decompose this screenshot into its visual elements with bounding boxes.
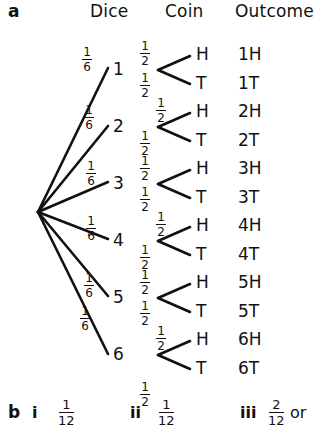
answer-fraction-ii: 1 12 <box>158 398 175 427</box>
coin-probability-6-tails: 1 2 <box>140 381 150 408</box>
fraction-numerator: 1 <box>158 398 175 411</box>
fraction-denominator: 2 <box>140 284 150 296</box>
fraction-denominator: 2 <box>140 87 150 99</box>
dice-branch-line-3 <box>38 182 108 212</box>
outcome-5h: 5H <box>238 274 262 291</box>
dice-probability-3: 1 6 <box>86 160 96 187</box>
dice-node-6: 6 <box>113 346 124 363</box>
fraction-numerator: 1 <box>86 160 96 172</box>
fraction-numerator: 1 <box>156 211 166 223</box>
outcome-6t: 6T <box>238 360 259 377</box>
coin-branch-line-4-tails <box>158 241 190 255</box>
outcome-6h: 6H <box>238 331 262 348</box>
fraction-numerator: 1 <box>140 300 150 312</box>
outcome-3t: 3T <box>238 189 259 206</box>
fraction-numerator: 1 <box>80 305 90 317</box>
coin-branch-line-1-heads <box>158 56 190 70</box>
fraction-numerator: 1 <box>140 269 150 281</box>
fraction-denominator: 6 <box>84 119 94 131</box>
fraction-denominator: 2 <box>140 55 150 67</box>
coin-branch-line-1-tails <box>158 70 190 84</box>
coin-branch-line-6-tails <box>158 355 190 369</box>
answer-numeral-ii: ii <box>130 405 141 421</box>
coin-node-3-heads: H <box>196 160 209 177</box>
fraction-numerator: 1 <box>140 381 150 393</box>
coin-node-6-tails: T <box>196 360 206 377</box>
probability-tree-figure: a Dice Coin Outcome 1 6 <box>0 0 323 434</box>
fraction-denominator: 2 <box>156 226 166 238</box>
outcome-4h: 4H <box>238 217 262 234</box>
outcome-2h: 2H <box>238 103 262 120</box>
coin-probability-2-tails: 1 2 <box>140 130 150 157</box>
coin-branch-line-3-heads <box>158 170 190 184</box>
dice-probability-1: 1 6 <box>82 46 92 73</box>
dice-node-2: 2 <box>113 118 124 135</box>
fraction-numerator: 1 <box>156 325 166 337</box>
dice-probability-5: 1 6 <box>84 272 94 299</box>
coin-node-5-heads: H <box>196 274 209 291</box>
fraction-numerator: 1 <box>140 72 150 84</box>
fraction-denominator: 6 <box>86 230 96 242</box>
outcome-5t: 5T <box>238 303 259 320</box>
dice-probability-2: 1 6 <box>84 104 94 131</box>
dice-node-1: 1 <box>113 61 124 78</box>
outcome-2t: 2T <box>238 132 259 149</box>
part-label-b: b <box>8 404 20 421</box>
dice-probability-6: 1 6 <box>80 305 90 332</box>
outcome-1t: 1T <box>238 75 259 92</box>
fraction-numerator: 1 <box>86 215 96 227</box>
answer-numeral-i: i <box>32 405 37 421</box>
dice-node-5: 5 <box>113 289 124 306</box>
fraction-numerator: 1 <box>140 186 150 198</box>
dice-node-4: 4 <box>113 232 124 249</box>
coin-branch-line-2-tails <box>158 127 190 141</box>
answer-numeral-iii: iii <box>240 405 256 421</box>
fraction-denominator: 6 <box>82 61 92 73</box>
outcome-4t: 4T <box>238 246 259 263</box>
coin-probability-2-heads: 1 2 <box>156 97 166 124</box>
fraction-denominator: 6 <box>80 320 90 332</box>
fraction-numerator: 2 <box>268 398 285 411</box>
coin-node-4-heads: H <box>196 217 209 234</box>
coin-probability-1-tails: 1 2 <box>140 72 150 99</box>
coin-probability-5-heads: 1 2 <box>140 269 150 296</box>
coin-node-2-tails: T <box>196 132 206 149</box>
fraction-numerator: 1 <box>58 398 75 411</box>
fraction-denominator: 2 <box>140 315 150 327</box>
fraction-denominator: 6 <box>84 287 94 299</box>
dice-probability-4: 1 6 <box>86 215 96 242</box>
fraction-numerator: 1 <box>84 104 94 116</box>
coin-node-5-tails: T <box>196 303 206 320</box>
fraction-denominator: 2 <box>140 201 150 213</box>
fraction-numerator: 1 <box>140 155 150 167</box>
coin-node-1-tails: T <box>196 75 206 92</box>
fraction-numerator: 1 <box>82 46 92 58</box>
fraction-denominator: 12 <box>58 414 75 427</box>
coin-probability-5-tails: 1 2 <box>140 300 150 327</box>
fraction-denominator: 2 <box>156 340 166 352</box>
coin-node-6-heads: H <box>196 331 209 348</box>
coin-node-3-tails: T <box>196 189 206 206</box>
coin-node-1-heads: H <box>196 46 209 63</box>
fraction-denominator: 2 <box>156 112 166 124</box>
coin-node-4-tails: T <box>196 246 206 263</box>
coin-probability-3-heads: 1 2 <box>140 155 150 182</box>
coin-node-2-heads: H <box>196 103 209 120</box>
coin-probability-6-heads: 1 2 <box>156 325 166 352</box>
coin-probability-4-heads: 1 2 <box>156 211 166 238</box>
dice-node-3: 3 <box>113 175 124 192</box>
answer-fraction-iii: 2 12 <box>268 398 285 427</box>
answer-or-text: or <box>290 405 306 421</box>
coin-probability-4-tails: 1 2 <box>140 244 150 271</box>
coin-branch-line-5-tails <box>158 298 190 312</box>
answer-fraction-i: 1 12 <box>58 398 75 427</box>
fraction-numerator: 1 <box>84 272 94 284</box>
fraction-numerator: 1 <box>140 244 150 256</box>
outcome-1h: 1H <box>238 46 262 63</box>
fraction-numerator: 1 <box>156 97 166 109</box>
fraction-denominator: 12 <box>158 414 175 427</box>
outcome-3h: 3H <box>238 160 262 177</box>
fraction-numerator: 1 <box>140 40 150 52</box>
fraction-denominator: 2 <box>140 396 150 408</box>
fraction-numerator: 1 <box>140 130 150 142</box>
